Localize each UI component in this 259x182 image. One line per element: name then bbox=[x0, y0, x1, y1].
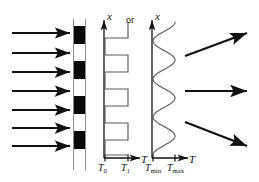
grating-dark-band-7 bbox=[74, 131, 85, 149]
ray-down bbox=[185, 122, 247, 146]
figure-canvas bbox=[0, 0, 259, 182]
tick-label-tmin: Tmin bbox=[145, 163, 161, 175]
incident-rays-group bbox=[12, 33, 70, 146]
sine-plot-x-axis-label: x bbox=[155, 11, 160, 22]
tick-label-t0: T0 bbox=[98, 163, 107, 175]
absorbing-grating-mask bbox=[73, 19, 86, 170]
sine-wave-curve bbox=[153, 22, 175, 155]
sine-wave-plot bbox=[152, 20, 188, 162]
square-plot-x-axis-label: x bbox=[107, 11, 112, 22]
sine-plot-t-axis-label: T bbox=[189, 154, 195, 165]
thermal-grating-figure: x T T0 T1 or x T Tmin Tmax bbox=[0, 0, 259, 182]
grating-dark-band-5 bbox=[74, 96, 85, 114]
or-connector-label: or bbox=[126, 15, 134, 25]
deflected-rays-group bbox=[185, 33, 247, 146]
ray-up bbox=[185, 33, 247, 56]
tick-label-tmax: Tmax bbox=[167, 163, 184, 175]
tick-label-t1: T1 bbox=[121, 163, 130, 175]
grating-dark-band-3 bbox=[74, 61, 85, 79]
square-wave-plot bbox=[104, 20, 140, 162]
square-wave-curve bbox=[105, 22, 128, 158]
grating-dark-band-1 bbox=[74, 26, 85, 44]
